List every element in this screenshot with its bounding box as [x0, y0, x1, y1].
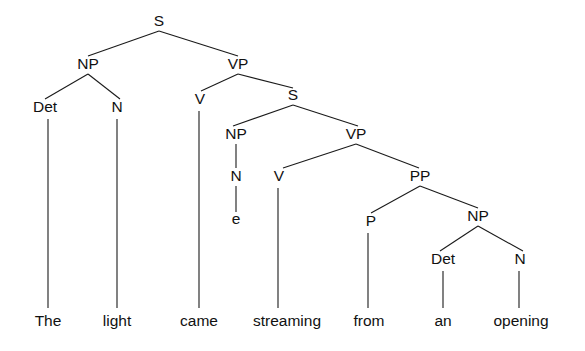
- tree-branch-VP1-V1: [201, 74, 238, 91]
- tree-node-p1: P: [366, 212, 376, 229]
- tree-node-trace_e: e: [232, 210, 241, 227]
- tree-branch-S2-VP2: [293, 105, 358, 126]
- tree-node-vp2: VP: [346, 125, 367, 142]
- tree-branch-NP1-Det1: [45, 74, 88, 99]
- tree-node-vp1: VP: [228, 55, 249, 72]
- tree-branch-NP1-N1: [88, 74, 120, 99]
- tree-branch-NP3-Det2: [440, 226, 478, 251]
- tree-node-np2: NP: [225, 125, 247, 142]
- tree-leaf-word-5: from: [354, 312, 385, 329]
- tree-node-n3: N: [514, 250, 525, 267]
- tree-branch-S2-NP2: [233, 105, 293, 126]
- tree-leaf-word-1: The: [35, 312, 62, 329]
- tree-node-n2: N: [230, 167, 241, 184]
- tree-branch-VP2-PP1: [356, 144, 419, 168]
- tree-node-layer: SNPVPDetNVSNPVPNVPPPNPDetNe: [33, 12, 526, 267]
- tree-branch-NP3-N3: [478, 226, 523, 251]
- tree-leaf-word-4: streaming: [253, 312, 321, 329]
- tree-node-v1: V: [195, 90, 206, 107]
- tree-node-n1: N: [111, 98, 122, 115]
- tree-branch-S1-VP1: [159, 31, 238, 56]
- tree-branch-VP2-V2: [283, 144, 356, 168]
- tree-node-v2: V: [274, 167, 285, 184]
- tree-leaf-layer: Thelightcamestreamingfromanopening: [35, 312, 549, 329]
- tree-branch-S1-NP1: [88, 31, 159, 56]
- tree-branch-PP1-NP3: [420, 186, 478, 208]
- syntax-tree-figure: SNPVPDetNVSNPVPNVPPPNPDetNe Thelightcame…: [0, 0, 585, 351]
- tree-leaf-word-6: an: [434, 312, 451, 329]
- tree-node-pp1: PP: [410, 167, 431, 184]
- tree-node-det1: Det: [33, 98, 58, 115]
- tree-node-s1: S: [154, 12, 164, 29]
- tree-node-np1: NP: [77, 55, 99, 72]
- syntax-tree-canvas: SNPVPDetNVSNPVPNVPPPNPDetNe Thelightcame…: [0, 0, 585, 351]
- tree-node-s2: S: [288, 86, 298, 103]
- tree-leaf-word-7: opening: [493, 312, 548, 329]
- tree-leaf-word-3: came: [180, 312, 218, 329]
- tree-branch-PP1-P1: [371, 186, 420, 213]
- tree-node-np3: NP: [467, 207, 489, 224]
- tree-branch-VP1-S2: [238, 74, 293, 88]
- tree-node-det2: Det: [431, 250, 456, 267]
- tree-leaf-word-2: light: [103, 312, 132, 329]
